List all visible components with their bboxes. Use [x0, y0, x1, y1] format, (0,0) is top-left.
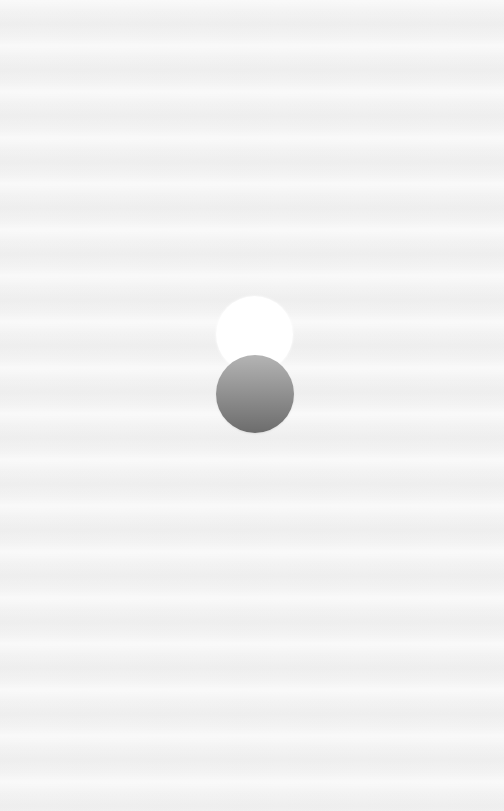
gray-gradient-circle [216, 355, 294, 433]
canvas-background [0, 0, 504, 811]
